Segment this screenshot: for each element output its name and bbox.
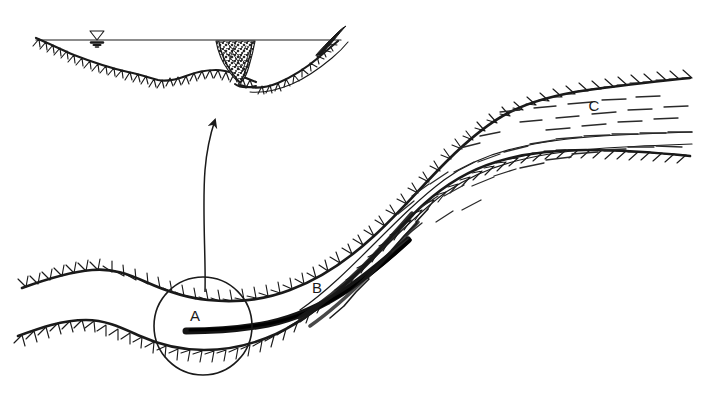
label-c: C xyxy=(589,97,600,114)
label-b: B xyxy=(312,279,322,296)
river-channel-diagram: A B C xyxy=(0,0,713,400)
figure-canvas: A B C xyxy=(0,0,713,400)
label-a: A xyxy=(190,307,200,324)
background xyxy=(0,0,713,400)
